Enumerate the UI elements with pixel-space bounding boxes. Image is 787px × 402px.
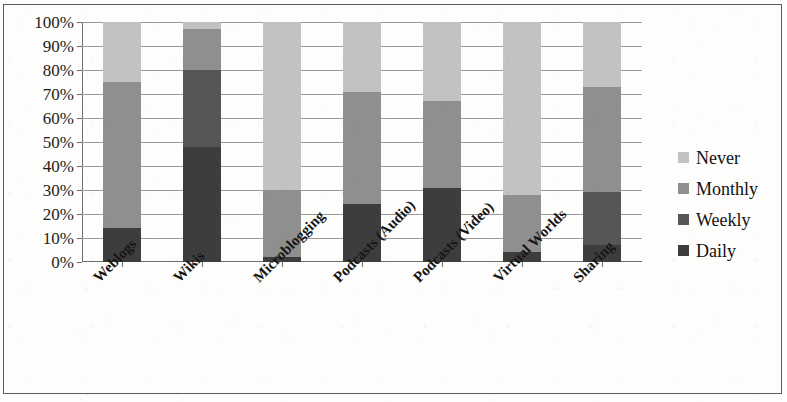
bar-segment-never[interactable]	[583, 22, 621, 87]
legend-label-monthly: Monthly	[696, 180, 758, 198]
legend-item: Weekly	[678, 204, 778, 235]
legend-label-weekly: Weekly	[696, 211, 751, 229]
legend-label-never: Never	[696, 149, 740, 167]
chart-screenshot: 100%90%80%70%60%50%40%30%20%10%0% Weblog…	[0, 0, 787, 402]
stacked-bar[interactable]	[343, 22, 381, 262]
legend-swatch-weekly	[678, 214, 689, 225]
legend-swatch-never	[678, 152, 689, 163]
bar-segment-never[interactable]	[503, 22, 541, 195]
legend-label-daily: Daily	[696, 242, 736, 260]
bar-segment-monthly[interactable]	[183, 29, 221, 70]
stacked-bar[interactable]	[503, 22, 541, 262]
bar-segment-monthly[interactable]	[343, 92, 381, 205]
bar-segment-daily[interactable]	[183, 147, 221, 262]
legend-item: Monthly	[678, 173, 778, 204]
stacked-bar[interactable]	[263, 22, 301, 262]
bar-group	[82, 22, 162, 262]
stacked-bar[interactable]	[583, 22, 621, 262]
bar-segment-never[interactable]	[263, 22, 301, 190]
y-axis-tick	[77, 262, 82, 263]
bar-segment-never[interactable]	[183, 22, 221, 29]
stacked-bar[interactable]	[183, 22, 221, 262]
legend-item: Daily	[678, 235, 778, 266]
bar-segment-never[interactable]	[423, 22, 461, 101]
stacked-bar[interactable]	[423, 22, 461, 262]
stacked-bar[interactable]	[103, 22, 141, 262]
legend-swatch-daily	[678, 245, 689, 256]
legend-item: Never	[678, 142, 778, 173]
bar-segment-monthly[interactable]	[423, 101, 461, 187]
bar-segment-never[interactable]	[343, 22, 381, 92]
bar-segment-weekly[interactable]	[583, 192, 621, 245]
bar-group	[562, 22, 642, 262]
bar-group	[162, 22, 242, 262]
bar-segment-monthly[interactable]	[103, 82, 141, 228]
legend-swatch-monthly	[678, 183, 689, 194]
bar-segment-weekly[interactable]	[183, 70, 221, 147]
bar-segment-never[interactable]	[103, 22, 141, 82]
bar-segment-monthly[interactable]	[583, 87, 621, 193]
legend: Never Monthly Weekly Daily	[678, 142, 778, 266]
